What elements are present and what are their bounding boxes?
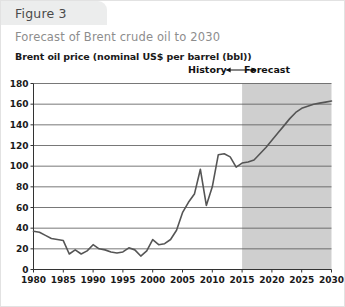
svg-text:160: 160	[10, 99, 29, 109]
svg-text:1995: 1995	[110, 275, 135, 285]
svg-text:1990: 1990	[81, 275, 106, 285]
line-chart: 020406080100120140160180 198019851990199…	[1, 1, 345, 307]
svg-text:140: 140	[10, 120, 29, 130]
history-forecast-arrow	[226, 67, 256, 72]
svg-text:2000: 2000	[140, 275, 165, 285]
y-tick-labels: 020406080100120140160180	[10, 79, 29, 275]
svg-text:2010: 2010	[200, 275, 225, 285]
svg-text:40: 40	[16, 223, 29, 233]
x-tick-labels: 1980198519901995200020052010201520202025…	[21, 275, 344, 285]
svg-text:2015: 2015	[230, 275, 255, 285]
svg-text:120: 120	[10, 141, 29, 151]
svg-text:100: 100	[10, 161, 29, 171]
svg-text:0: 0	[22, 265, 28, 275]
svg-text:80: 80	[16, 182, 29, 192]
svg-text:2005: 2005	[170, 275, 195, 285]
figure-card: Figure 3 Forecast of Brent crude oil to …	[0, 0, 345, 307]
svg-text:2025: 2025	[289, 275, 314, 285]
svg-text:180: 180	[10, 79, 29, 89]
forecast-shaded-region	[242, 84, 331, 270]
svg-text:2030: 2030	[319, 275, 344, 285]
svg-text:2020: 2020	[259, 275, 284, 285]
svg-text:1985: 1985	[51, 275, 76, 285]
svg-text:20: 20	[16, 244, 29, 254]
svg-text:60: 60	[16, 203, 29, 213]
svg-text:1980: 1980	[21, 275, 46, 285]
